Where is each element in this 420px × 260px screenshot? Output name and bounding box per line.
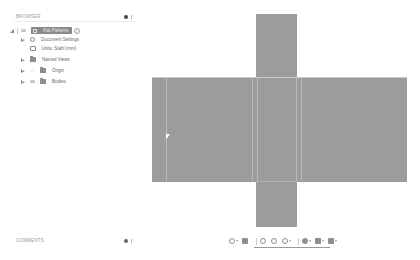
viewports-icon[interactable] xyxy=(328,238,334,244)
pin-icon[interactable] xyxy=(124,15,128,19)
bend-line xyxy=(252,78,253,181)
folder-icon xyxy=(40,79,46,84)
browser-divider xyxy=(14,21,136,22)
tree-item-label: Named Views xyxy=(42,57,70,62)
chevron-down-icon[interactable] xyxy=(289,240,291,242)
zoom-icon[interactable] xyxy=(271,238,277,244)
flat-pattern-face-bottom[interactable] xyxy=(256,181,297,227)
pattern-outline-top xyxy=(152,77,407,78)
chevron-down-icon[interactable] xyxy=(335,240,337,242)
navigation-toolbar xyxy=(229,236,341,246)
flat-pattern-face-top[interactable] xyxy=(256,14,297,78)
fit-icon[interactable] xyxy=(282,238,288,244)
bend-line xyxy=(256,181,297,182)
expand-arrow-icon[interactable] xyxy=(21,38,25,42)
folder-icon xyxy=(40,68,46,73)
bend-line xyxy=(166,78,167,181)
expand-arrow-icon[interactable] xyxy=(21,69,25,73)
separator xyxy=(17,28,18,34)
visibility-eye-icon[interactable] xyxy=(30,80,35,83)
activate-radio-icon[interactable] xyxy=(74,28,80,34)
tree-item-units[interactable]: Units: Stahl (mm) xyxy=(30,44,76,53)
mouse-cursor-icon xyxy=(166,134,170,140)
browser-root-row[interactable]: Flat Patterns xyxy=(10,26,80,35)
chevron-down-icon[interactable] xyxy=(309,240,311,242)
component-label: Flat Patterns xyxy=(43,28,69,33)
tree-item-label: Document Settings xyxy=(41,37,79,42)
bend-line xyxy=(296,78,297,181)
chevron-down-icon[interactable] xyxy=(322,240,324,242)
expand-arrow-icon[interactable] xyxy=(21,80,25,84)
look-at-icon[interactable] xyxy=(242,238,248,244)
panel-collapse-icon[interactable] xyxy=(131,239,132,243)
tree-item-label: Units: Stahl (mm) xyxy=(42,46,77,51)
flat-pattern-face-center-band[interactable] xyxy=(152,77,407,182)
toolbar-separator xyxy=(256,238,257,245)
orbit-icon[interactable] xyxy=(229,238,235,244)
expand-arrow-icon[interactable] xyxy=(21,58,25,62)
visibility-eye-icon[interactable] xyxy=(30,69,35,72)
tree-item-document-settings[interactable]: Document Settings xyxy=(21,35,79,44)
units-icon xyxy=(30,46,36,52)
folder-icon xyxy=(30,57,36,62)
pin-icon[interactable] xyxy=(124,239,128,243)
panel-collapse-icon[interactable] xyxy=(131,15,132,19)
active-component[interactable]: Flat Patterns xyxy=(31,27,72,34)
chevron-down-icon[interactable] xyxy=(236,240,238,242)
tree-item-bodies[interactable]: Bodies xyxy=(21,77,66,86)
tree-item-named-views[interactable]: Named Views xyxy=(21,55,70,64)
gear-icon xyxy=(30,37,35,42)
visibility-eye-icon[interactable] xyxy=(21,29,26,32)
toolbar-underline xyxy=(254,247,330,248)
tree-item-label: Origin xyxy=(52,68,64,73)
toolbar-separator xyxy=(298,238,299,245)
bend-line xyxy=(257,78,258,181)
browser-title: BROWSER xyxy=(16,14,41,19)
component-icon xyxy=(33,29,37,33)
display-settings-icon[interactable] xyxy=(302,238,308,244)
tree-item-label: Bodies xyxy=(52,79,66,84)
collapse-arrow-icon[interactable] xyxy=(10,29,14,33)
pan-icon[interactable] xyxy=(260,238,266,244)
comments-title: COMMENTS xyxy=(16,238,44,243)
grid-icon[interactable] xyxy=(315,238,321,244)
tree-item-origin[interactable]: Origin xyxy=(21,66,64,75)
bend-line xyxy=(301,78,302,181)
